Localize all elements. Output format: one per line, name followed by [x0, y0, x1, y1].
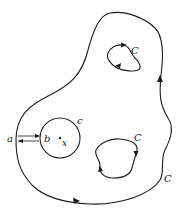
lower-hole-arrow-left-icon: [98, 166, 103, 172]
cut-arrow-left-icon: [18, 139, 23, 143]
lower-hole-arrow-right-icon: [134, 151, 139, 157]
outer-arrow-right-icon: [157, 75, 163, 82]
label-a: a: [7, 133, 13, 144]
outer-contour: [16, 12, 171, 204]
upper-hole-arrow-top-icon: [121, 43, 127, 48]
label-b: b: [44, 133, 50, 144]
label-circle-c: c: [77, 115, 83, 126]
cut-arrow-right-icon: [35, 134, 40, 138]
label-x: x: [62, 138, 67, 148]
label-upper-hole-C: C: [131, 45, 139, 56]
label-outer-C: C: [164, 173, 172, 184]
lower-hole-contour: [96, 139, 137, 178]
diagram-canvas: a b x c C C C: [0, 0, 182, 215]
point-x-dot: [59, 137, 61, 139]
label-lower-hole-C: C: [134, 132, 142, 143]
